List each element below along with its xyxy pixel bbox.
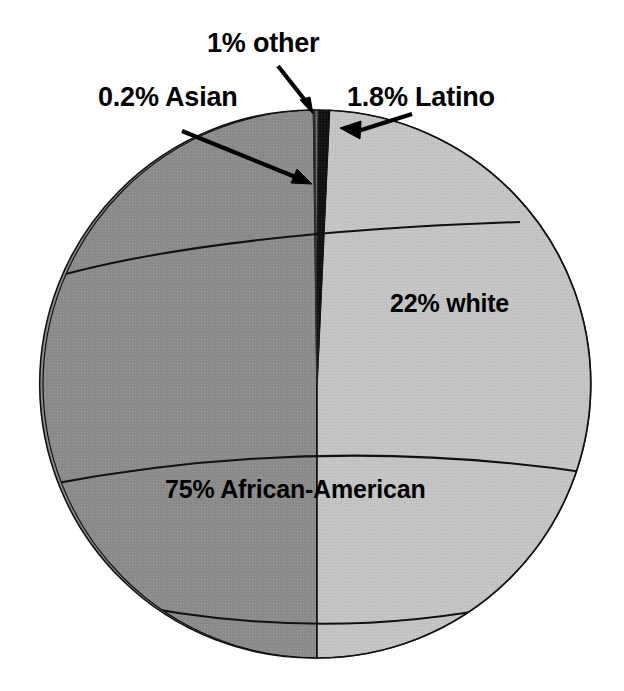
label-latino: 1.8% Latino: [347, 82, 495, 113]
other-arrow: [278, 66, 313, 114]
label-african-american: 75% African-American: [165, 475, 425, 504]
halftone-texture: [43, 110, 591, 658]
label-other: 1% other: [207, 28, 319, 59]
pie-chart-figure: 1% other 0.2% Asian 1.8% Latino 22% whit…: [0, 0, 624, 691]
pie-chart-canvas: [0, 0, 624, 691]
label-asian: 0.2% Asian: [98, 82, 238, 113]
label-white: 22% white: [390, 289, 509, 318]
